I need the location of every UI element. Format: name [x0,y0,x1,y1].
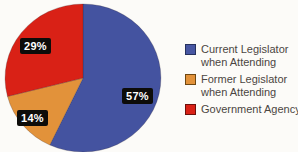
legend-swatch-orange-icon [185,74,196,85]
pie-chart-figure: 57% 14% 29% Current Legislator when Atte… [0,0,298,152]
legend-text: Government Agency [201,103,298,116]
legend-label-line: Current Legislator [201,43,288,56]
legend-item-current-legislator: Current Legislator when Attending [185,43,297,69]
legend-label-line: Former Legislator [201,73,287,86]
legend-text: Current Legislator when Attending [201,43,288,69]
pie-chart [0,0,170,152]
slice-label-orange: 14% [17,110,48,126]
legend-item-former-legislator: Former Legislator when Attending [185,73,297,99]
legend-text: Former Legislator when Attending [201,73,287,99]
legend: Current Legislator when Attending Former… [185,43,297,116]
legend-swatch-red-icon [185,104,196,115]
legend-swatch-blue-icon [185,44,196,55]
legend-label-line: when Attending [201,56,288,69]
legend-label-line: Government Agency [201,103,298,116]
slice-label-blue: 57% [122,88,153,104]
legend-label-line: when Attending [201,86,287,99]
legend-item-government-agency: Government Agency [185,103,297,116]
slice-label-red: 29% [20,38,51,54]
